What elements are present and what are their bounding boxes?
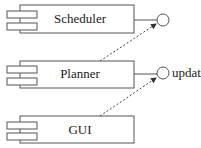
interface-lollipop-icon[interactable] (157, 14, 169, 26)
component-port-icon (7, 23, 37, 30)
interface-lollipop-icon[interactable] (157, 67, 169, 79)
component-scheduler[interactable]: Scheduler (7, 5, 169, 33)
component-port-icon (7, 11, 37, 18)
component-port-icon (7, 133, 37, 140)
component-diagram: Scheduler Planner update GUI (0, 0, 201, 148)
component-planner[interactable]: Planner update (7, 61, 201, 88)
component-label: Planner (60, 66, 100, 81)
component-port-icon (7, 66, 37, 73)
interface-label: update (172, 65, 201, 80)
component-gui[interactable]: GUI (7, 116, 134, 143)
component-label: Scheduler (54, 11, 107, 26)
component-label: GUI (68, 122, 91, 137)
component-port-icon (7, 78, 37, 85)
component-port-icon (7, 122, 37, 129)
